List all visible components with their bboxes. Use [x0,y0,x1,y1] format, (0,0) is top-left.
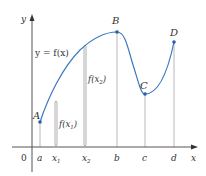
point-label-c: C [140,80,148,91]
bracket-f-x1 [55,101,57,146]
point-label-a: A [32,110,40,121]
x-axis-label: x [191,153,196,163]
point-d [172,40,176,44]
bracket-label-f-x2: f(x2) [87,74,106,85]
point-label-d: D [169,27,178,38]
tick-label-d: d [171,153,177,163]
tick-label-a: a [37,153,42,163]
x-axis-arrow-icon [191,145,198,150]
y-axis-label: y [20,14,27,24]
tick-label-c: c [142,153,147,163]
bracket-f-x2 [84,45,86,146]
tick-label-x2: x2 [82,153,91,164]
point-b [115,30,119,34]
point-c [143,92,147,96]
function-graph-diagram: A B C D y x 0 y = f(x) f(x1) f(x2) a x1 … [0,0,206,176]
origin-label: 0 [21,153,27,163]
tick-label-x1: x1 [52,153,61,164]
bracket-label-f-x1: f(x1) [58,119,77,130]
point-label-b: B [111,15,119,26]
y-axis-arrow-icon [30,14,35,21]
curve-label: y = f(x) [34,48,69,58]
tick-label-b: b [114,153,120,163]
function-curve [40,32,174,122]
axes [12,20,192,172]
